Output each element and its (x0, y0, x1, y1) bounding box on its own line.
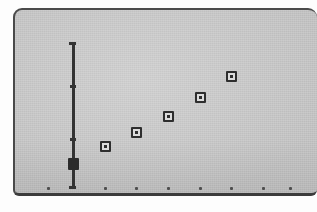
data-point (100, 141, 111, 152)
x-axis-tick-dot (135, 187, 138, 190)
plot-panel (13, 8, 317, 196)
x-axis-tick-dot (167, 187, 170, 190)
data-point (131, 127, 142, 138)
axis-marker (68, 158, 79, 170)
y-axis-top-cap (69, 42, 76, 45)
data-point (226, 71, 237, 82)
y-axis-tick (70, 85, 76, 88)
x-axis-tick-dot (47, 187, 50, 190)
scatter-plot-area (13, 8, 317, 196)
y-axis-bottom-cap (69, 186, 76, 189)
data-point (195, 92, 206, 103)
x-axis-tick-dot (104, 187, 107, 190)
data-point (163, 111, 174, 122)
x-axis-tick-dot (230, 187, 233, 190)
y-axis-tick (70, 138, 76, 141)
figure-root (0, 0, 317, 212)
x-axis-tick-dot (289, 187, 292, 190)
x-axis-tick-dot (262, 187, 265, 190)
x-axis-tick-dot (199, 187, 202, 190)
